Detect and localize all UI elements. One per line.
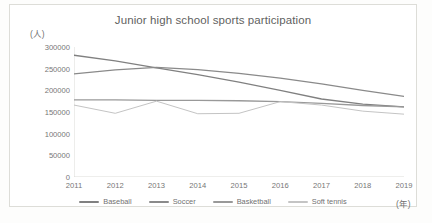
legend-item-baseball[interactable]: Baseball — [79, 197, 131, 206]
line-chart-svg — [74, 47, 404, 177]
x-axis-tick: 2012 — [107, 181, 124, 190]
y-axis-tick-labels: 050000100000150000200000250000300000 — [10, 47, 70, 177]
legend-swatch-icon — [288, 201, 308, 203]
legend-swatch-icon — [79, 201, 99, 203]
series-line-baseball — [74, 55, 404, 107]
x-axis-tick: 2011 — [66, 181, 82, 190]
x-axis-tick: 2019 — [396, 181, 413, 190]
x-axis-tick: 2015 — [231, 181, 248, 190]
legend-label: Basketball — [237, 197, 271, 206]
legend-swatch-icon — [149, 201, 169, 203]
legend-label: Soccer — [173, 197, 196, 206]
y-axis-unit-label: (人) — [30, 27, 45, 39]
y-axis-tick: 200000 — [45, 86, 70, 95]
legend-item-soft-tennis[interactable]: Soft tennis — [288, 197, 347, 206]
x-axis-tick: 2017 — [313, 181, 330, 190]
x-axis-tick: 2018 — [354, 181, 371, 190]
x-axis-tick: 2013 — [148, 181, 165, 190]
x-axis-tick: 2014 — [189, 181, 206, 190]
y-axis-tick: 50000 — [49, 151, 70, 160]
y-axis-tick: 150000 — [45, 108, 70, 117]
legend-swatch-icon — [213, 201, 233, 203]
chart-title: Junior high school sports participation — [10, 14, 416, 26]
legend-label: Soft tennis — [312, 197, 347, 206]
chart-frame: Junior high school sports participation … — [9, 4, 417, 207]
plot-area — [74, 47, 404, 177]
legend-item-basketball[interactable]: Basketball — [213, 197, 271, 206]
y-axis-tick: 100000 — [45, 129, 70, 138]
x-axis-tick: 2016 — [272, 181, 289, 190]
legend-label: Baseball — [103, 197, 131, 206]
chart-legend: BaseballSoccerBasketballSoft tennis — [10, 197, 416, 206]
legend-item-soccer[interactable]: Soccer — [149, 197, 196, 206]
y-axis-tick: 300000 — [45, 43, 70, 52]
y-axis-tick: 250000 — [45, 64, 70, 73]
